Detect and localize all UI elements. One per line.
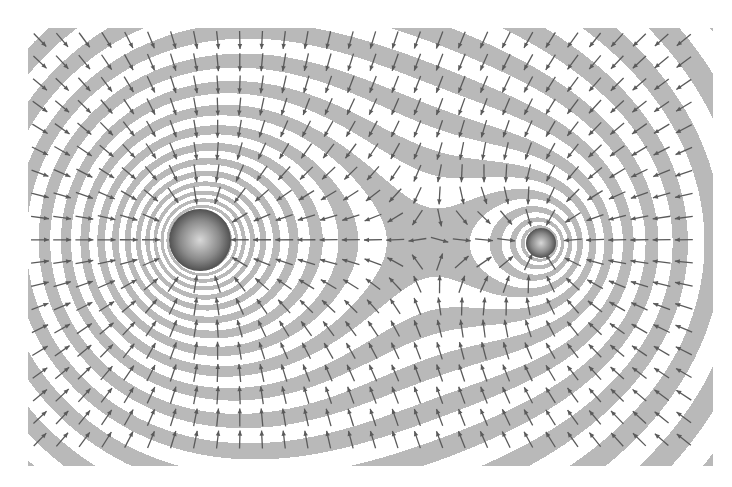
field-vector-arrows bbox=[0, 0, 732, 487]
large-mass bbox=[169, 209, 231, 271]
small-mass bbox=[526, 228, 556, 258]
gravity-field-diagram bbox=[0, 0, 732, 487]
